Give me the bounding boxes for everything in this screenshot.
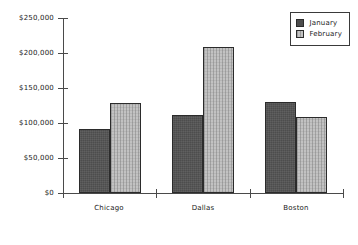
y-axis-tick-label: $50,000 xyxy=(24,154,54,162)
x-axis-category-label: Chicago xyxy=(94,204,124,212)
legend-swatch-icon xyxy=(296,19,304,27)
bar-dallas-january xyxy=(172,115,203,193)
legend-item-february[interactable]: February xyxy=(296,30,342,38)
bar-chart: $250,000 $200,000 $150,000 $100,000 $50,… xyxy=(0,0,358,245)
x-axis-tick xyxy=(343,189,344,198)
bar-boston-february xyxy=(296,117,327,193)
x-axis-category-label: Boston xyxy=(283,204,308,212)
y-axis-tick-label: $150,000 xyxy=(19,84,54,92)
chart-legend: January February xyxy=(290,12,350,46)
bar-chicago-february xyxy=(110,103,141,193)
bar-boston-january xyxy=(265,102,296,193)
legend-swatch-icon xyxy=(296,30,304,38)
x-axis-category-label: Dallas xyxy=(192,204,215,212)
y-axis-tick-label: $200,000 xyxy=(19,49,54,57)
legend-item-label: February xyxy=(309,30,342,38)
y-axis-tick-label: $100,000 xyxy=(19,119,54,127)
legend-item-label: January xyxy=(309,19,337,27)
y-axis-tick-label: $0 xyxy=(45,189,54,197)
bar-dallas-february xyxy=(203,47,234,193)
x-axis-line xyxy=(63,193,344,194)
y-axis-tick-label: $250,000 xyxy=(19,14,54,22)
bar-chicago-january xyxy=(79,129,110,193)
legend-item-january[interactable]: January xyxy=(296,19,342,27)
